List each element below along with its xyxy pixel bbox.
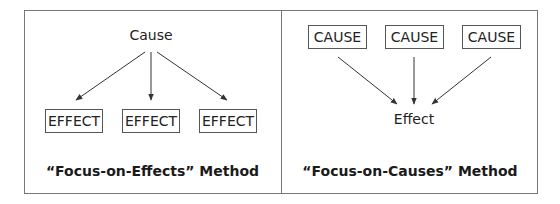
cause-box-3: CAUSE bbox=[462, 25, 521, 49]
arrow-cause-to-effect-3 bbox=[157, 52, 227, 100]
arrow-cause-3-to-effect bbox=[432, 57, 491, 104]
focus-on-causes-caption: “Focus-on-Causes” Method bbox=[282, 163, 538, 179]
arrow-cause-1-to-effect bbox=[338, 57, 397, 104]
effect-box-3: EFFECT bbox=[199, 109, 257, 133]
effect-node: Effect bbox=[384, 111, 444, 127]
effect-box-2: EFFECT bbox=[122, 109, 180, 133]
cause-node: Cause bbox=[121, 27, 181, 43]
cause-box-1: CAUSE bbox=[308, 25, 367, 49]
effect-box-1: EFFECT bbox=[45, 109, 103, 133]
cause-box-2: CAUSE bbox=[385, 25, 444, 49]
focus-on-effects-caption: “Focus-on-Effects” Method bbox=[24, 163, 281, 179]
arrow-cause-to-effect-1 bbox=[76, 52, 145, 100]
